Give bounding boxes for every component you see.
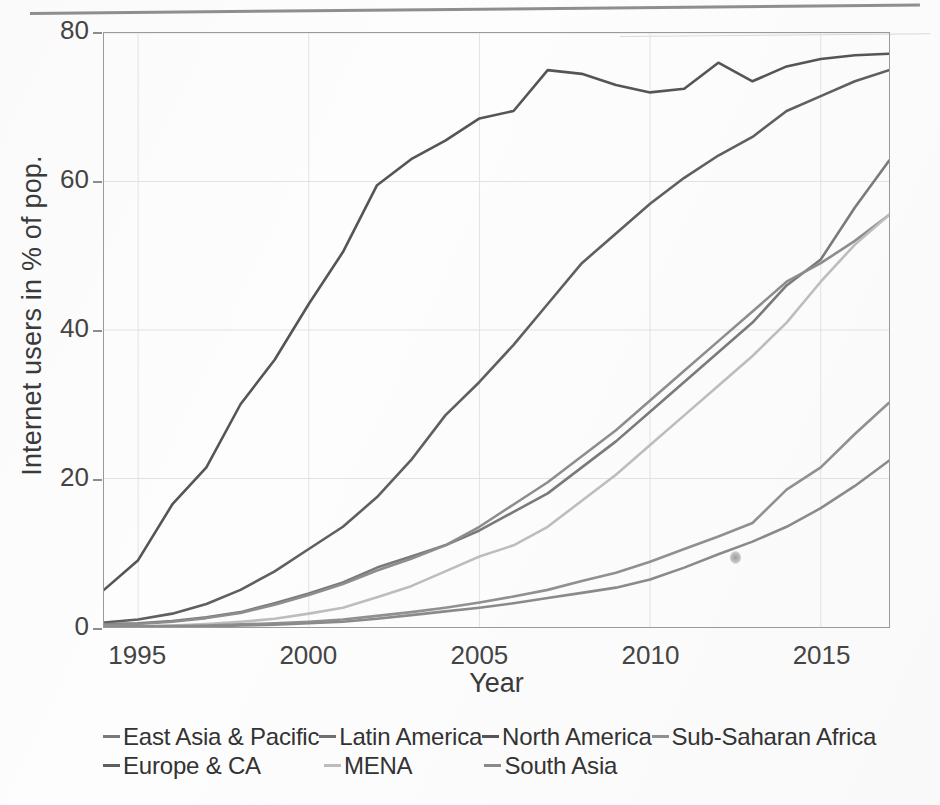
legend-line-swatch-icon [103,735,120,738]
legend-row-2: Europe & CAMENASouth Asia [103,751,903,780]
legend-item-north-america[interactable]: North America [482,723,651,751]
legend-label: Europe & CA [123,752,261,780]
series-line-north-america [104,54,889,590]
series-line-south-asia [104,461,889,627]
legend-item-sub-saharan-africa[interactable]: Sub-Saharan Africa [652,723,877,751]
legend-line-swatch-icon [652,735,669,738]
legend-line-swatch-icon [482,735,499,738]
series-line-europe-ca [104,70,889,622]
plot-svg [104,33,889,627]
legend-item-mena[interactable]: MENA [324,752,413,780]
legend-item-south-asia[interactable]: South Asia [484,752,617,780]
legend-label: MENA [344,752,413,780]
scan-smudge-artifact [730,551,741,564]
plot-area [103,32,890,628]
y-tick-mark [93,628,102,630]
legend-line-swatch-icon [324,764,341,767]
legend-line-swatch-icon [484,764,501,767]
legend-line-swatch-icon [319,735,336,738]
x-tick-label: 2015 [762,640,882,671]
x-axis-title: Year [103,668,890,699]
y-tick-label: 60 [31,164,89,195]
chart-page: Internet users in % of pop. 020406080 19… [0,0,940,805]
y-tick-mark [93,181,102,183]
x-tick-label: 2010 [590,640,710,671]
line-chart: Internet users in % of pop. 020406080 19… [0,0,940,715]
legend-item-latin-america[interactable]: Latin America [319,723,482,751]
legend-line-swatch-icon [103,764,120,767]
legend-row-1: East Asia & PacificLatin AmericaNorth Am… [103,722,903,751]
legend-label: Sub-Saharan Africa [672,723,877,751]
y-tick-label: 0 [31,611,89,642]
x-tick-label: 2005 [419,640,539,671]
legend-label: North America [502,723,651,751]
y-tick-label: 80 [31,15,89,46]
x-tick-label: 2000 [248,640,368,671]
legend-item-east-asia-pacific[interactable]: East Asia & Pacific [103,723,319,751]
series-line-latin-america [104,215,889,625]
legend-label: Latin America [339,723,482,751]
y-tick-mark [93,330,102,332]
series-line-mena [104,215,889,627]
y-tick-label: 20 [31,462,89,493]
y-tick-label: 40 [31,313,89,344]
legend-label: South Asia [504,752,617,780]
y-tick-mark [93,479,102,481]
legend-item-europe-ca[interactable]: Europe & CA [103,752,261,780]
chart-legend: East Asia & PacificLatin AmericaNorth Am… [103,722,903,780]
series-line-east-asia-pacific [104,161,889,624]
legend-label: East Asia & Pacific [123,723,319,751]
y-tick-mark [93,32,102,34]
x-tick-label: 1995 [77,640,197,671]
